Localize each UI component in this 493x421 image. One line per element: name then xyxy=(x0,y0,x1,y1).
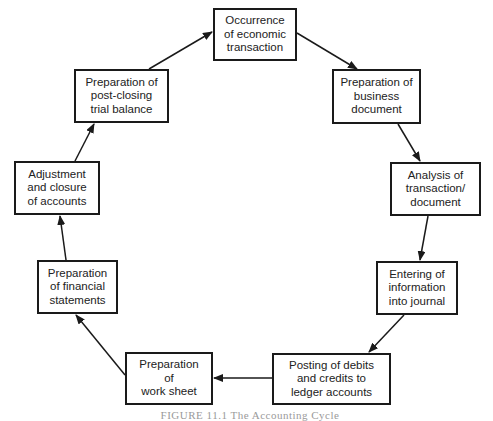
step-label: Preparation of financial statements xyxy=(48,267,107,308)
step-label: Entering of information into journal xyxy=(389,268,446,309)
arrow-journal-to-ledger xyxy=(369,315,404,352)
step-label: Adjustment and closure of accounts xyxy=(27,168,86,209)
arrow-work-sheet-to-financial-statements xyxy=(76,315,125,375)
arrow-adjustment-to-post-closing xyxy=(75,124,94,161)
step-preparation-of-business-document: Preparation of business document xyxy=(332,69,421,124)
step-label: Occurrence of economic transaction xyxy=(224,14,286,55)
step-posting-to-ledger: Posting of debits and credits to ledger … xyxy=(272,353,391,405)
step-analysis-of-transaction: Analysis of transaction/ document xyxy=(390,162,481,216)
step-adjustment-and-closure: Adjustment and closure of accounts xyxy=(14,161,100,215)
step-label: Preparation of business document xyxy=(340,76,412,117)
arrow-business-document-to-analysis xyxy=(398,124,420,161)
arrow-analysis-to-journal xyxy=(420,216,428,260)
step-label: Analysis of transaction/ document xyxy=(406,169,465,210)
step-entering-into-journal: Entering of information into journal xyxy=(376,261,458,315)
step-label: Preparation of work sheet xyxy=(139,358,198,399)
step-label: Preparation of post-closing trial balanc… xyxy=(85,76,157,117)
arrow-occurrence-to-business-document xyxy=(297,33,357,69)
figure-caption: FIGURE 11.1 The Accounting Cycle xyxy=(150,409,350,421)
step-preparation-of-financial-statements: Preparation of financial statements xyxy=(37,260,118,314)
step-preparation-of-work-sheet: Preparation of work sheet xyxy=(125,352,213,405)
arrow-financial-statements-to-adjustment xyxy=(60,216,66,260)
step-label: Posting of debits and credits to ledger … xyxy=(289,359,374,400)
step-occurrence-of-economic-transaction: Occurrence of economic transaction xyxy=(213,8,297,61)
arrow-post-closing-to-occurrence xyxy=(149,32,212,69)
step-post-closing-trial-balance: Preparation of post-closing trial balanc… xyxy=(74,69,169,123)
